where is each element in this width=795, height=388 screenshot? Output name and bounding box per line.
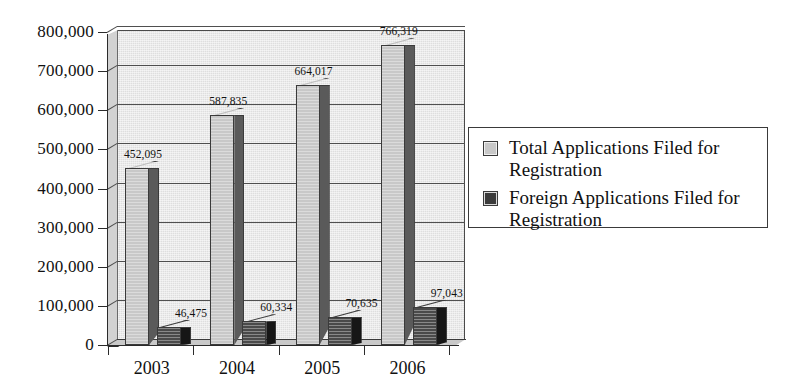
- bar-value-label: 97,043: [431, 287, 463, 299]
- y-axis-tick-label: 100,000: [37, 296, 94, 316]
- y-axis-tick-label: 0: [85, 335, 94, 355]
- bar-texture: [158, 328, 180, 344]
- x-axis-label: 2003: [134, 358, 170, 379]
- bar-value-label: 587,835: [209, 95, 247, 107]
- y-tick-mark: [98, 32, 107, 33]
- bar-side-face: [352, 317, 362, 345]
- x-tick-mark: [279, 346, 280, 355]
- x-axis-label: 2006: [389, 358, 425, 379]
- bar-front-face: [125, 168, 149, 345]
- chart-legend: Total Applications Filed for Registratio…: [468, 127, 768, 228]
- bar-front-face: [296, 85, 320, 345]
- plot-area: 800,000700,000600,000500,000400,000300,0…: [107, 30, 458, 345]
- y-axis-tick-label: 300,000: [37, 218, 94, 238]
- bar-side-face: [320, 85, 330, 345]
- bar-texture: [211, 116, 233, 344]
- y-tick-mark: [98, 345, 107, 346]
- x-axis-label: 2004: [219, 358, 255, 379]
- bar-foreign-2005[interactable]: [328, 317, 352, 345]
- legend-label-total: Total Applications Filed for Registratio…: [509, 137, 757, 181]
- bar-side-face: [234, 115, 244, 345]
- bar-side-face: [437, 307, 447, 345]
- x-axis-line: [107, 345, 459, 346]
- bar-side-face: [405, 45, 415, 345]
- bar-value-label: 60,334: [260, 301, 292, 313]
- chart-page: 800,000700,000600,000500,000400,000300,0…: [0, 0, 795, 388]
- bar-value-label: 766,319: [380, 25, 418, 37]
- bar-texture: [382, 46, 404, 344]
- y-tick-mark: [98, 110, 107, 111]
- bar-front-face: [210, 115, 234, 345]
- bar-foreign-2004[interactable]: [242, 321, 266, 345]
- bar-value-label: 70,635: [345, 297, 377, 309]
- bar-texture: [414, 308, 436, 344]
- bar-side-face: [149, 168, 159, 345]
- y-tick-mark: [98, 267, 107, 268]
- y-axis-tick-label: 500,000: [37, 139, 94, 159]
- y-axis-tick-label: 400,000: [37, 179, 94, 199]
- legend-label-foreign: Foreign Applications Filed for Registrat…: [509, 187, 757, 231]
- x-axis-label: 2005: [304, 358, 340, 379]
- x-tick-mark: [193, 346, 194, 355]
- bar-foreign-2006[interactable]: [413, 307, 437, 345]
- x-tick-mark: [364, 346, 365, 355]
- legend-swatch-foreign-icon: [483, 191, 498, 206]
- y-tick-mark: [98, 228, 107, 229]
- bar-side-face: [266, 321, 276, 345]
- legend-item-foreign[interactable]: Foreign Applications Filed for Registrat…: [483, 187, 757, 231]
- bar-texture: [297, 86, 319, 344]
- bar-texture: [329, 318, 351, 344]
- bar-total-2004[interactable]: [210, 115, 234, 345]
- y-axis-tick-label: 700,000: [37, 61, 94, 81]
- bar-texture: [126, 169, 148, 344]
- legend-swatch-total-icon: [483, 141, 498, 156]
- bar-value-label: 46,475: [175, 307, 207, 319]
- y-axis-line: [107, 34, 108, 346]
- x-tick-mark: [108, 346, 109, 355]
- y-tick-mark: [98, 189, 107, 190]
- bar-front-face: [242, 321, 266, 345]
- bar-total-2005[interactable]: [296, 85, 320, 345]
- y-tick-mark: [98, 71, 107, 72]
- bar-front-face: [157, 327, 181, 345]
- bar-texture: [243, 322, 265, 344]
- bar-value-label: 452,095: [124, 148, 162, 160]
- x-tick-mark: [449, 346, 450, 355]
- y-axis-tick-label: 800,000: [37, 22, 94, 42]
- bar-total-2006[interactable]: [381, 45, 405, 345]
- y-axis-tick-label: 200,000: [37, 257, 94, 277]
- y-axis-tick-label: 600,000: [37, 100, 94, 120]
- y-tick-mark: [98, 149, 107, 150]
- bar-front-face: [413, 307, 437, 345]
- bar-front-face: [381, 45, 405, 345]
- bar-side-face: [181, 327, 191, 345]
- bar-value-label: 664,017: [294, 65, 332, 77]
- legend-item-total[interactable]: Total Applications Filed for Registratio…: [483, 137, 757, 181]
- bar-front-face: [328, 317, 352, 345]
- y-tick-mark: [98, 306, 107, 307]
- bar-total-2003[interactable]: [125, 168, 149, 345]
- bar-foreign-2003[interactable]: [157, 327, 181, 345]
